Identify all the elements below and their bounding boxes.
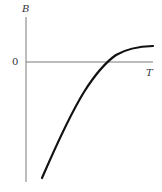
plot-area xyxy=(0,0,162,192)
curve-b-vs-t xyxy=(42,46,153,178)
y-axis-label: B xyxy=(22,4,29,14)
x-axis-label: T xyxy=(146,68,153,78)
origin-label: 0 xyxy=(12,57,18,67)
